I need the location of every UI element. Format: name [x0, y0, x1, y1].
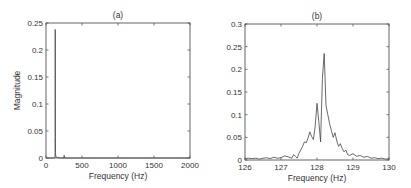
data-series-line [245, 53, 389, 159]
plot-frame [245, 24, 389, 160]
chart-panel-b: 12612712812913000.050.10.150.20.250.3(b)… [226, 11, 396, 183]
y-tick-label: 0.25 [27, 19, 43, 28]
x-tick-label: 128 [310, 163, 324, 172]
y-tick-label: 0 [39, 154, 44, 163]
y-tick-label: 0.15 [226, 88, 242, 97]
plot-frame [46, 23, 190, 158]
y-tick-label: 0.05 [226, 133, 242, 142]
y-tick-label: 0.3 [231, 20, 243, 29]
x-tick-label: 1500 [145, 161, 163, 170]
y-axis-title: Magnitude [12, 70, 22, 110]
x-axis-title: Frequency (Hz) [89, 171, 148, 181]
x-tick-label: 0 [44, 161, 49, 170]
chart-panel-a: 050010001500200000.050.10.150.20.25(a)Fr… [12, 10, 199, 181]
panel-title: (a) [113, 10, 124, 20]
x-tick-label: 130 [382, 163, 396, 172]
x-tick-label: 1000 [109, 161, 127, 170]
y-tick-label: 0.2 [32, 46, 44, 55]
panel-title: (b) [312, 11, 323, 21]
y-tick-label: 0.1 [32, 100, 44, 109]
figure: 050010001500200000.050.10.150.20.25(a)Fr… [0, 0, 411, 188]
y-tick-label: 0 [238, 156, 243, 165]
y-tick-label: 0.05 [27, 127, 43, 136]
x-axis-title: Frequency (Hz) [288, 173, 347, 183]
x-tick-label: 2000 [181, 161, 199, 170]
x-tick-label: 129 [346, 163, 360, 172]
y-tick-label: 0.1 [231, 111, 243, 120]
y-tick-label: 0.15 [27, 73, 43, 82]
x-tick-label: 127 [274, 163, 288, 172]
y-tick-label: 0.2 [231, 65, 243, 74]
x-tick-label: 500 [75, 161, 89, 170]
y-tick-label: 0.25 [226, 43, 242, 52]
data-series-line [46, 29, 190, 158]
